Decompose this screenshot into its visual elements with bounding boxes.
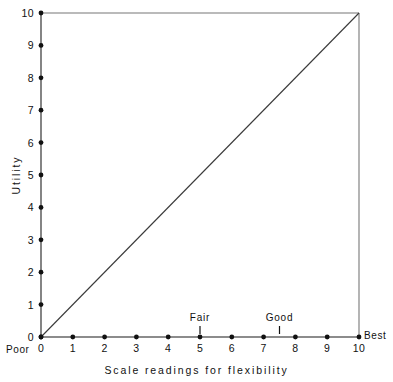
x-tick-label: 5 [190, 343, 210, 354]
x-tick-label: 1 [63, 343, 83, 354]
x-tick-label: 8 [285, 343, 305, 354]
y-tick-label: 9 [14, 40, 34, 51]
y-tick-marker [39, 270, 44, 275]
y-tick-marker [39, 140, 44, 145]
y-tick-label: 8 [14, 73, 34, 84]
y-tick-label: 7 [14, 105, 34, 116]
x-tick-label: 7 [254, 343, 274, 354]
y-tick-marker [39, 237, 44, 242]
y-tick-label: 3 [14, 235, 34, 246]
x-tick-marker [293, 335, 298, 340]
y-tick-label: 4 [14, 202, 34, 213]
anchor-label-good: Good [266, 313, 294, 323]
zone-tick-strokes [200, 326, 280, 334]
x-tick-marker [39, 335, 44, 340]
y-tick-marker [39, 205, 44, 210]
y-tick-label: 10 [14, 8, 34, 19]
x-tick-marker [134, 335, 139, 340]
x-tick-label: 3 [126, 343, 146, 354]
x-tick-label: 9 [317, 343, 337, 354]
anchor-label-poor: Poor [6, 345, 30, 355]
anchor-label-fair: Fair [190, 313, 210, 323]
y-tick-marker [39, 302, 44, 307]
y-tick-label: 1 [14, 299, 34, 310]
y-tick-label: 0 [14, 332, 34, 343]
plot-canvas [0, 0, 393, 382]
y-tick-marker [39, 43, 44, 48]
y-tick-marker [39, 108, 44, 113]
x-axis-title: Scale readings for flexibility [0, 365, 393, 376]
x-tick-marker [261, 335, 266, 340]
x-tick-marker [229, 335, 234, 340]
x-tick-marker [70, 335, 75, 340]
x-tick-label: 4 [158, 343, 178, 354]
x-tick-marker [102, 335, 107, 340]
x-tick-marker [357, 335, 362, 340]
anchor-label-best: Best [364, 331, 386, 341]
x-tick-marker [198, 335, 203, 340]
y-tick-marker [39, 173, 44, 178]
x-tick-label: 2 [95, 343, 115, 354]
x-tick-marker [166, 335, 171, 340]
y-tick-marker [39, 11, 44, 16]
y-tick-label: 6 [14, 137, 34, 148]
x-tick-label: 6 [222, 343, 242, 354]
y-tick-label: 2 [14, 267, 34, 278]
x-tick-label: 0 [31, 343, 51, 354]
y-axis-title: Utility [11, 156, 22, 195]
y-tick-marker [39, 75, 44, 80]
x-tick-marker [325, 335, 330, 340]
utility-data-line [41, 13, 359, 337]
utility-chart-figure: 0 1 2 3 4 5 6 7 8 9 10 0 1 2 3 4 5 6 7 8… [0, 0, 393, 382]
x-tick-label: 10 [349, 343, 369, 354]
